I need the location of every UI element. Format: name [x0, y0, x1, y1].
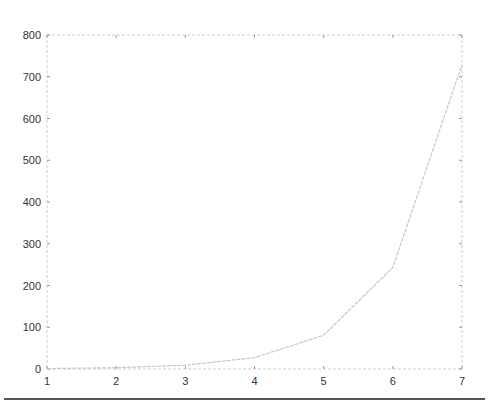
y-tick-label: 200	[23, 280, 41, 292]
y-tick-label: 300	[23, 238, 41, 250]
y-tick-label: 0	[35, 363, 41, 375]
x-tick-label: 7	[459, 375, 465, 387]
x-axis: 1234567	[44, 35, 465, 387]
x-tick-label: 6	[390, 375, 396, 387]
x-tick-label: 1	[44, 375, 50, 387]
bottom-rule	[4, 398, 485, 400]
plot-frame	[47, 35, 462, 369]
x-tick-label: 2	[113, 375, 119, 387]
x-tick-label: 4	[251, 375, 257, 387]
y-axis: 0100200300400500600700800	[23, 29, 462, 375]
y-tick-label: 400	[23, 196, 41, 208]
data-line	[47, 65, 462, 369]
line-chart: 0100200300400500600700800 1234567	[0, 0, 489, 407]
y-tick-label: 600	[23, 113, 41, 125]
y-tick-label: 700	[23, 71, 41, 83]
x-tick-label: 3	[182, 375, 188, 387]
y-tick-label: 800	[23, 29, 41, 41]
y-tick-label: 500	[23, 154, 41, 166]
x-tick-label: 5	[321, 375, 327, 387]
y-tick-label: 100	[23, 321, 41, 333]
